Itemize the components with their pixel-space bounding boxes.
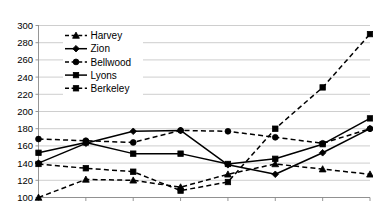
datapoint-berkeley [273, 126, 278, 131]
chart-canvas: 300280260240220200180160140120100 Harvey… [0, 0, 373, 206]
datapoint-bellwood [130, 140, 136, 146]
legend-marker-lyons [73, 72, 78, 77]
datapoint-berkeley [225, 179, 230, 184]
datapoint-bellwood [36, 136, 42, 142]
y-tick-label: 100 [17, 192, 33, 203]
legend-marker-berkeley [73, 86, 78, 91]
legend-label-lyons[interactable]: Lyons [91, 70, 117, 81]
datapoint-berkeley [131, 169, 136, 174]
legend-label-bellwood[interactable]: Bellwood [91, 57, 132, 68]
datapoint-berkeley [367, 31, 372, 36]
legend-label-zion[interactable]: Zion [91, 43, 110, 54]
datapoint-lyons [178, 151, 183, 156]
datapoint-berkeley [36, 161, 41, 166]
x-axis-tickmarks [39, 198, 371, 202]
chart-legend: HarveyZionBellwoodLyonsBerkeley [63, 28, 143, 96]
y-tick-label: 200 [17, 106, 33, 117]
datapoint-lyons [36, 150, 41, 155]
y-tick-label: 220 [17, 89, 33, 100]
y-tick-label: 260 [17, 54, 33, 65]
y-tick-label: 180 [17, 123, 33, 134]
y-tick-label: 240 [17, 72, 33, 83]
y-tick-label: 300 [17, 20, 33, 31]
legend-label-berkeley[interactable]: Berkeley [91, 83, 130, 94]
datapoint-lyons [225, 161, 230, 166]
y-axis-tick-labels: 300280260240220200180160140120100 [17, 20, 33, 203]
datapoint-berkeley [178, 188, 183, 193]
datapoint-lyons [131, 151, 136, 156]
datapoint-bellwood [178, 128, 184, 134]
y-tick-label: 160 [17, 140, 33, 151]
datapoint-lyons [320, 141, 325, 146]
legend-marker-bellwood [73, 59, 79, 65]
datapoint-berkeley [83, 166, 88, 171]
datapoint-lyons [367, 116, 372, 121]
datapoint-zion [272, 171, 279, 178]
y-tick-label: 140 [17, 158, 33, 169]
datapoint-bellwood [272, 134, 278, 140]
datapoint-lyons [273, 156, 278, 161]
line-chart: 300280260240220200180160140120100 Harvey… [0, 0, 373, 206]
y-tick-label: 280 [17, 37, 33, 48]
datapoint-bellwood [225, 128, 231, 134]
datapoint-bellwood [367, 126, 373, 132]
y-tick-label: 120 [17, 175, 33, 186]
legend-label-harvey[interactable]: Harvey [91, 30, 123, 41]
datapoint-berkeley [320, 85, 325, 90]
datapoint-lyons [83, 140, 88, 145]
series-lyons [36, 116, 373, 167]
datapoint-zion [319, 149, 326, 156]
